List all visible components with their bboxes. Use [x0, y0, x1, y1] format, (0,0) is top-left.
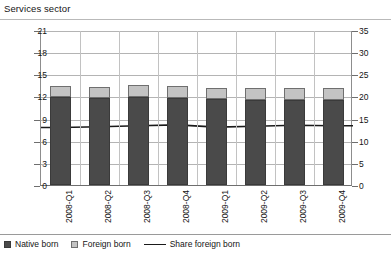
bar-group	[245, 30, 266, 185]
y-axis-tick-right	[352, 142, 358, 143]
category-separator	[119, 31, 120, 185]
category-separator	[275, 31, 276, 185]
y-axis-label-left: 0	[19, 181, 47, 191]
y-axis-tick-right	[352, 31, 358, 32]
y-axis-tick-right	[352, 164, 358, 165]
bar-group	[128, 30, 149, 185]
x-axis-label: 2009-Q1	[220, 190, 230, 223]
x-axis-label: 2008-Q2	[103, 190, 113, 223]
y-axis-label-right: 25	[359, 70, 387, 80]
y-axis-label-right: 15	[359, 115, 387, 125]
bar-segment-native-born	[167, 98, 188, 185]
y-axis-tick-right	[352, 97, 358, 98]
category-separator	[197, 31, 198, 185]
bar-group	[50, 30, 71, 185]
plot-area	[40, 31, 352, 186]
y-axis-label-right: 35	[359, 26, 387, 36]
x-axis-label: 2008-Q3	[142, 190, 152, 223]
y-axis-label-left: 12	[19, 92, 47, 102]
dark-square-swatch-icon	[4, 241, 11, 248]
bar-segment-foreign-born	[89, 87, 110, 98]
bar-segment-native-born	[89, 98, 110, 185]
bar-segment-foreign-born	[323, 88, 344, 101]
bar-segment-native-born	[128, 97, 149, 185]
title-divider	[0, 19, 391, 20]
bar-group	[206, 30, 227, 185]
bar-segment-foreign-born	[245, 88, 266, 100]
y-axis-label-left: 6	[19, 137, 47, 147]
bar-segment-foreign-born	[284, 88, 305, 101]
bar-segment-foreign-born	[50, 86, 71, 97]
y-axis-label-left: 9	[19, 115, 47, 125]
y-axis-label-left: 15	[19, 70, 47, 80]
y-axis-label-right: 20	[359, 92, 387, 102]
light-square-swatch-icon	[71, 241, 78, 248]
bar-group	[284, 30, 305, 185]
bar-segment-foreign-born	[206, 88, 227, 100]
y-axis-tick-right	[352, 186, 358, 187]
legend-label-share-foreign-born: Share foreign born	[170, 239, 240, 249]
bar-segment-native-born	[206, 99, 227, 185]
x-axis-label: 2008-Q1	[64, 190, 74, 223]
y-axis-label-right: 5	[359, 159, 387, 169]
bar-segment-native-born	[50, 97, 71, 185]
legend-item-share-foreign-born: Share foreign born	[144, 239, 240, 249]
chart-legend: Native born Foreign born Share foreign b…	[4, 239, 240, 249]
y-axis-label-left: 21	[19, 26, 47, 36]
bar-group	[89, 30, 110, 185]
bar-segment-foreign-born	[167, 86, 188, 98]
line-swatch-icon	[144, 244, 166, 245]
legend-label-foreign-born: Foreign born	[82, 239, 130, 249]
legend-item-native-born: Native born	[4, 239, 58, 249]
category-separator	[236, 31, 237, 185]
x-axis-label: 2008-Q4	[181, 190, 191, 223]
y-axis-label-right: 30	[359, 48, 387, 58]
category-separator	[314, 31, 315, 185]
y-axis-label-left: 18	[19, 48, 47, 58]
category-separator	[80, 31, 81, 185]
y-axis-label-right: 0	[359, 181, 387, 191]
y-axis-tick-right	[352, 75, 358, 76]
y-axis-label-left: 3	[19, 159, 47, 169]
bar-segment-native-born	[323, 100, 344, 185]
bar-group	[167, 30, 188, 185]
x-axis-label: 2009-Q2	[259, 190, 269, 223]
y-axis-tick-right	[352, 53, 358, 54]
legend-item-foreign-born: Foreign born	[71, 239, 130, 249]
bar-segment-native-born	[284, 100, 305, 185]
y-axis-label-right: 10	[359, 137, 387, 147]
x-axis-label: 2009-Q4	[337, 190, 347, 223]
category-separator	[158, 31, 159, 185]
legend-label-native-born: Native born	[15, 239, 58, 249]
y-axis-tick-right	[352, 120, 358, 121]
bar-group	[323, 30, 344, 185]
x-axis-label: 2009-Q3	[298, 190, 308, 223]
legend-divider	[0, 234, 391, 235]
bar-segment-native-born	[245, 100, 266, 185]
page-title: Services sector	[4, 3, 70, 14]
bar-segment-foreign-born	[128, 85, 149, 97]
